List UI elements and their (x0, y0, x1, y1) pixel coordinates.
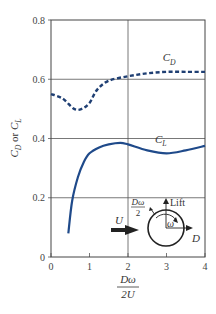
y-axis-label: CD​ or CL​ (8, 118, 23, 157)
chart: 00.20.40.60.801234 CD​ or CL​ Dω 2U CD​C… (0, 0, 216, 314)
series-cl-line (68, 143, 205, 233)
surface-speed-numerator: Dω (131, 197, 145, 207)
drag-label: D (191, 232, 200, 244)
drag-arrowhead (186, 225, 193, 231)
series-label: CD​ (163, 51, 176, 66)
y-tick-label: 0.8 (33, 15, 46, 26)
x-tick-label: 1 (87, 261, 92, 272)
series-labels: CD​CL​ (155, 51, 176, 148)
x-axis-label-numerator: Dω (119, 273, 136, 285)
freestream-arrow-head (125, 225, 139, 235)
grid-lines (51, 20, 205, 257)
x-tick-label: 4 (203, 261, 208, 272)
x-tick-label: 0 (49, 261, 54, 272)
lift-arrowhead (163, 198, 169, 204)
freestream-arrow-shaft (111, 228, 127, 232)
x-axis-label-denominator: 2U (121, 288, 136, 300)
lift-label: Lift (170, 197, 185, 208)
series-label: CL​ (155, 133, 167, 148)
y-tick-label: 0 (40, 252, 45, 263)
y-tick-label: 0.4 (33, 133, 46, 144)
x-tick-label: 2 (126, 261, 131, 272)
freestream-label: U (115, 214, 124, 226)
axis-labels: CD​ or CL​ Dω 2U (8, 118, 139, 300)
x-tick-label: 3 (164, 261, 169, 272)
rotation-label: ω (167, 218, 174, 229)
magnus-inset-diagram: U Dω 2 Lift D ω (111, 197, 200, 246)
y-tick-label: 0.2 (33, 192, 46, 203)
surface-speed-denominator: 2 (136, 208, 141, 218)
y-tick-label: 0.6 (33, 74, 46, 85)
